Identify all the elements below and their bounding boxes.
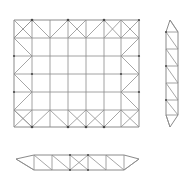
bottom-elevation-outline (16, 155, 139, 170)
plan-vertical-gridlines (32, 20, 121, 127)
plan-top-edge-bracing (14, 20, 139, 38)
truss-drawing-svg (0, 0, 187, 183)
bottom-elevation-group (16, 154, 139, 171)
right-elevation-group (165, 20, 178, 127)
truss-drawing-canvas (0, 0, 187, 183)
plan-left-edge-bracing (14, 20, 32, 127)
right-elevation-diagonals (166, 20, 178, 127)
plan-bottom-edge-bracing (14, 110, 139, 127)
plan-view-group (13, 19, 140, 129)
right-elevation-outline (166, 20, 178, 127)
plan-right-edge-bracing (121, 20, 139, 127)
bottom-elevation-diagonals (16, 155, 139, 170)
